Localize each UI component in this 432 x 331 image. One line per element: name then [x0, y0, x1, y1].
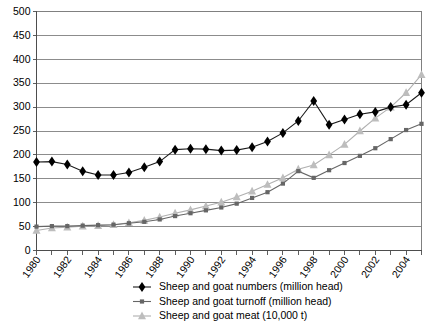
x-tick-label-1986: 1986: [112, 254, 135, 280]
data-point-numbers-2002: [372, 107, 379, 117]
data-point-meat-1999: [325, 151, 333, 159]
x-tick-label-1980: 1980: [19, 254, 42, 280]
data-point-turnoff-1999: [327, 168, 331, 172]
data-point-numbers-1994: [249, 142, 256, 152]
data-point-turnoff-1991: [204, 208, 208, 212]
data-point-numbers-1993: [233, 145, 240, 155]
y-tick-label-100: 100: [13, 196, 31, 208]
data-point-turnoff-1986: [127, 221, 131, 225]
data-point-numbers-1983: [79, 166, 86, 176]
data-point-turnoff-2000: [342, 161, 346, 165]
data-point-turnoff-1984: [96, 223, 100, 227]
series-numbers: [33, 88, 425, 180]
x-tick-label-2000: 2000: [327, 254, 350, 280]
data-point-numbers-2001: [357, 109, 364, 119]
y-tick-label-50: 50: [19, 220, 31, 232]
data-point-turnoff-1992: [219, 205, 223, 209]
x-tick-label-1990: 1990: [173, 254, 196, 280]
data-point-numbers-2003: [387, 102, 394, 112]
data-point-meat-2005: [418, 70, 426, 78]
y-tick-label-150: 150: [13, 172, 31, 184]
data-point-numbers-1987: [141, 162, 148, 172]
legend-square-marker: [140, 299, 144, 303]
series-line-numbers: [37, 93, 422, 175]
chart-container: 050100150200250300350400450500 198019821…: [0, 0, 432, 331]
line-chart: 050100150200250300350400450500 198019821…: [0, 0, 432, 331]
legend-label-2: Sheep and goat meat (10,000 t): [159, 309, 307, 321]
series-line-turnoff: [37, 124, 422, 227]
data-point-numbers-1992: [218, 146, 225, 156]
data-point-turnoff-2001: [358, 154, 362, 158]
x-tick-label-1996: 1996: [266, 254, 289, 280]
series-line-meat: [37, 75, 422, 231]
y-tick-label-250: 250: [13, 124, 31, 136]
y-tick-label-300: 300: [13, 100, 31, 112]
data-point-turnoff-2002: [373, 146, 377, 150]
data-point-turnoff-1982: [65, 224, 69, 228]
chart-legend: Sheep and goat numbers (million head)She…: [133, 280, 343, 321]
y-tick-label-350: 350: [13, 76, 31, 88]
x-tick-label-1982: 1982: [50, 254, 73, 280]
data-point-turnoff-1981: [50, 224, 54, 228]
y-tick-label-450: 450: [13, 29, 31, 41]
data-point-numbers-2005: [418, 88, 425, 98]
data-point-turnoff-1987: [142, 220, 146, 224]
data-point-turnoff-1993: [235, 202, 239, 206]
y-tick-label-400: 400: [13, 53, 31, 65]
data-point-numbers-1981: [49, 157, 56, 167]
data-point-meat-1996: [279, 173, 287, 181]
data-point-meat-1995: [264, 180, 272, 188]
data-point-turnoff-2005: [419, 122, 423, 126]
x-tick-label-1994: 1994: [235, 254, 258, 280]
data-point-turnoff-1998: [312, 176, 316, 180]
data-point-turnoff-2004: [404, 128, 408, 132]
data-point-meat-2001: [356, 127, 364, 135]
data-point-numbers-1980: [33, 157, 40, 167]
legend-label-1: Sheep and goat turnoff (million head): [159, 295, 332, 307]
data-point-numbers-1995: [264, 137, 271, 147]
data-point-turnoff-1996: [281, 181, 285, 185]
data-point-numbers-2000: [341, 115, 348, 125]
legend-label-0: Sheep and goat numbers (million head): [159, 280, 343, 292]
x-tick-label-1988: 1988: [143, 254, 166, 280]
y-axis-tick-labels: 050100150200250300350400450500: [13, 5, 37, 256]
data-point-turnoff-1980: [34, 225, 38, 229]
x-tick-label-1998: 1998: [297, 254, 320, 280]
data-point-turnoff-1994: [250, 196, 254, 200]
data-point-numbers-1991: [203, 144, 210, 154]
y-tick-label-200: 200: [13, 148, 31, 160]
data-point-turnoff-1995: [265, 190, 269, 194]
data-series-group: [33, 70, 426, 234]
data-point-numbers-2004: [403, 100, 410, 110]
data-point-meat-1998: [310, 161, 318, 169]
y-tick-label-0: 0: [25, 244, 31, 256]
data-point-turnoff-2003: [389, 137, 393, 141]
x-tick-label-1992: 1992: [204, 254, 227, 280]
data-point-turnoff-1988: [158, 217, 162, 221]
gridlines: [37, 12, 422, 227]
legend-diamond-marker: [139, 282, 146, 292]
data-point-turnoff-1989: [173, 214, 177, 218]
series-turnoff: [34, 122, 423, 229]
data-point-numbers-1996: [280, 128, 287, 138]
x-axis-tick-labels: 1980198219841986198819901992199419961998…: [19, 254, 412, 280]
data-point-numbers-1990: [187, 144, 194, 154]
data-point-numbers-1982: [64, 159, 71, 169]
data-point-numbers-1986: [126, 168, 133, 178]
x-tick-label-2002: 2002: [358, 254, 381, 280]
x-tick-label-1984: 1984: [81, 254, 104, 280]
data-point-meat-2000: [341, 140, 349, 148]
data-point-turnoff-1985: [111, 223, 115, 227]
data-point-numbers-1988: [156, 157, 163, 167]
data-point-turnoff-1990: [188, 211, 192, 215]
data-point-turnoff-1983: [81, 224, 85, 228]
data-point-numbers-1989: [172, 145, 179, 155]
data-point-turnoff-1997: [296, 169, 300, 173]
x-tick-label-2004: 2004: [389, 254, 412, 280]
y-tick-label-500: 500: [13, 5, 31, 17]
data-point-meat-1994: [248, 187, 256, 195]
